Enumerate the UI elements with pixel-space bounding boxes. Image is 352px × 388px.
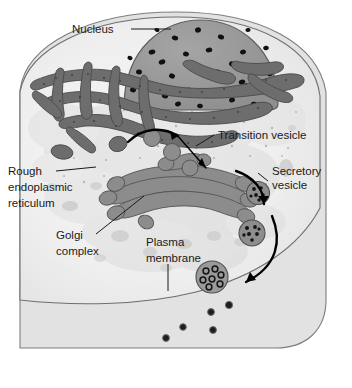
transition-vesicle-3 [182,160,198,176]
label-nucleus: Nucleus [72,23,114,35]
cell-diagram-canvas: Nucleus Transition vesicle Secretory ves… [0,0,352,388]
secretory-vesicle-2 [239,220,265,246]
transition-vesicle-2 [164,144,181,161]
label-transition-vesicle: Transition vesicle [218,129,306,141]
cell-diagram-figure: Nucleus Transition vesicle Secretory ves… [0,0,352,388]
secretory-vesicle-fusing [196,261,228,293]
